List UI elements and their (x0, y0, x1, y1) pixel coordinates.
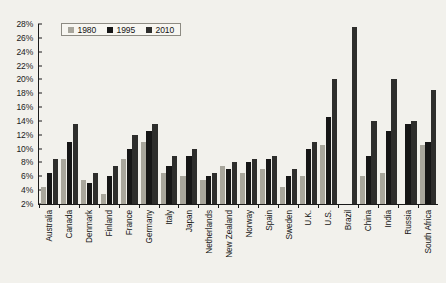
x-axis-label: Germany (144, 210, 154, 243)
y-axis-tick-label: 8% (21, 157, 33, 167)
x-axis-label-cell: South Africa (418, 209, 438, 281)
y-axis-tick-label: 18% (17, 88, 33, 98)
bar (226, 169, 231, 204)
x-axis-tick (99, 204, 119, 208)
y-axis-tick-label: 24% (17, 47, 33, 57)
bar-groups-container (40, 24, 439, 204)
bar-group (59, 24, 79, 204)
bar (431, 90, 436, 204)
x-axis-label: Australia (44, 210, 54, 241)
x-axis-label: Russia (403, 210, 413, 235)
legend-item: 2010 (146, 25, 174, 35)
bar-chart: 28%26%24%22%20%18%16%14%12%10%8%6%4%2% A… (0, 0, 446, 283)
bar (405, 124, 410, 204)
x-axis-label: Finland (104, 210, 114, 237)
x-axis-label: India (383, 210, 393, 228)
bar (280, 187, 285, 204)
y-axis-tick-label: 20% (17, 74, 33, 84)
x-axis-label: New Zealand (224, 210, 234, 258)
bar (246, 162, 251, 204)
x-axis-label-cell: Australia (40, 209, 60, 281)
legend-label: 1995 (117, 25, 136, 35)
x-axis-tick (358, 204, 378, 208)
bar-group (279, 24, 299, 204)
bar-group (159, 24, 179, 204)
bar (200, 180, 205, 204)
x-axis-tick (259, 204, 279, 208)
bar (212, 173, 217, 204)
bar (420, 145, 425, 204)
bar (206, 176, 211, 204)
bar-group (338, 24, 358, 204)
x-axis-tick (179, 204, 199, 208)
x-axis-label-cell: Japan (179, 209, 199, 281)
bar (101, 194, 106, 204)
bar (61, 159, 66, 204)
y-axis: 28%26%24%22%20%18%16%14%12%10%8%6%4%2% (0, 24, 38, 205)
x-axis-ticks (40, 204, 439, 208)
bar (81, 180, 86, 204)
bar (107, 176, 112, 204)
bar-group (318, 24, 338, 204)
x-axis-tick (318, 204, 338, 208)
x-axis-tick (40, 204, 60, 208)
bar-group (298, 24, 318, 204)
bar (286, 176, 291, 204)
x-axis-label: Spain (264, 210, 274, 231)
x-axis-label-cell: Russia (398, 209, 418, 281)
legend-label: 2010 (156, 25, 175, 35)
y-axis-tick-label: 10% (17, 144, 33, 154)
x-axis-label-cell: New Zealand (219, 209, 239, 281)
bar (113, 166, 118, 204)
bar (320, 145, 325, 204)
x-axis-label-cell: France (119, 209, 139, 281)
bar (132, 135, 137, 204)
bar (312, 142, 317, 204)
legend-swatch-icon (68, 27, 74, 33)
bar (93, 173, 98, 204)
x-axis-tick (398, 204, 418, 208)
x-axis-label: U.K. (303, 210, 313, 226)
x-axis-labels: AustraliaCanadaDenmarkFinlandFranceGerma… (40, 209, 439, 281)
bar (152, 124, 157, 204)
x-axis-label: Sweden (284, 210, 294, 239)
x-axis-label-cell: Canada (59, 209, 79, 281)
bar (161, 173, 166, 204)
bar-group (199, 24, 219, 204)
bar-group (219, 24, 239, 204)
legend-swatch-icon (107, 27, 113, 33)
bar (220, 166, 225, 204)
x-axis-label: Brazil (343, 210, 353, 230)
bar (300, 176, 305, 204)
legend-item: 1995 (107, 25, 135, 35)
x-axis-label: South Africa (423, 210, 433, 254)
bar (366, 156, 371, 204)
x-axis-tick (139, 204, 159, 208)
y-axis-tick-label: 16% (17, 102, 33, 112)
bar (47, 173, 52, 204)
legend-label: 1980 (78, 25, 97, 35)
bar (332, 79, 337, 204)
x-axis-label: France (124, 210, 134, 235)
bar-group (179, 24, 199, 204)
bar-group (378, 24, 398, 204)
bar (67, 142, 72, 204)
y-axis-tick-label: 2% (21, 199, 33, 209)
x-axis-tick (199, 204, 219, 208)
x-axis-tick (159, 204, 179, 208)
bar (41, 187, 46, 204)
x-axis-label-cell: China (358, 209, 378, 281)
x-axis-label-cell: U.K. (298, 209, 318, 281)
bar (186, 156, 191, 204)
y-axis-tick-label: 4% (21, 185, 33, 195)
bar (352, 27, 357, 204)
bar (380, 173, 385, 204)
bar (386, 131, 391, 204)
x-axis-label-cell: Norway (239, 209, 259, 281)
bar-group (358, 24, 378, 204)
x-axis-tick (279, 204, 299, 208)
x-axis-label: China (363, 210, 373, 231)
bar-group (239, 24, 259, 204)
x-axis-tick (239, 204, 259, 208)
y-axis-tick-label: 12% (17, 130, 33, 140)
